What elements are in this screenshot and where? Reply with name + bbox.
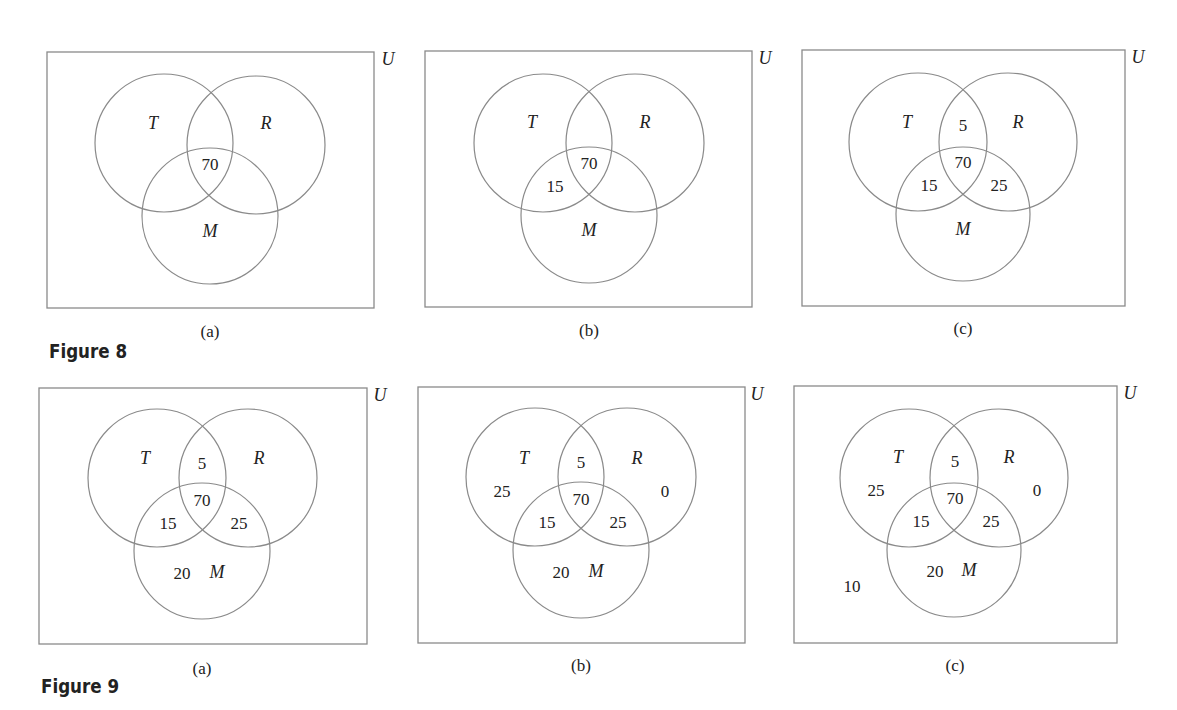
region-outside: 10	[844, 578, 861, 595]
region-rm: 25	[983, 513, 1000, 530]
venn-diagram-shapes	[0, 0, 1177, 710]
figure-title: Figure 9	[41, 675, 119, 697]
region-t: 25	[868, 482, 885, 499]
region-m: 20	[927, 563, 944, 580]
region-trm: 70	[947, 490, 964, 507]
set-label-t: T	[893, 448, 903, 466]
set-label-r: R	[1004, 448, 1015, 466]
venn-fig9-c: U T R M 25 0 5 70 15 25 20 10 (c)	[0, 0, 1177, 710]
region-r: 0	[1033, 482, 1042, 499]
set-label-m: M	[962, 561, 977, 579]
panel-caption: (c)	[946, 657, 965, 674]
region-tm: 15	[913, 513, 930, 530]
universe-label: U	[1124, 384, 1137, 402]
region-tr: 5	[951, 453, 960, 470]
